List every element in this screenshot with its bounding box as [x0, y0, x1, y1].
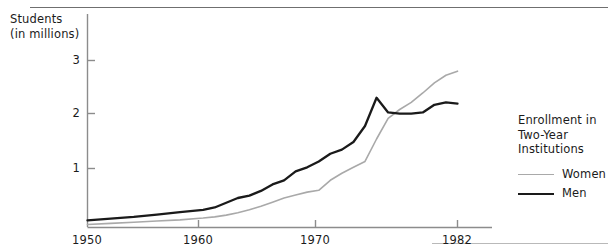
chart-legend: Enrollment in Two-Year Institutions Wome…	[518, 113, 606, 203]
legend-title: Enrollment in Two-Year Institutions	[518, 113, 606, 157]
legend-label-men: Men	[562, 186, 587, 200]
legend-swatch-women-icon	[518, 169, 554, 179]
series-line-women	[88, 71, 458, 224]
legend-item-men: Men	[518, 184, 606, 203]
legend-swatch-men-icon	[518, 188, 554, 198]
legend-label-women: Women	[562, 167, 606, 181]
legend-item-women: Women	[518, 165, 606, 184]
